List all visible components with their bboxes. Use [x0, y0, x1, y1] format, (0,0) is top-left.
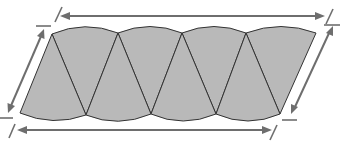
sector-parallelogram-diagram — [0, 0, 342, 145]
top-dimension-arrow — [55, 7, 333, 24]
bottom-dimension-arrow — [9, 124, 277, 140]
sectors-group — [20, 27, 316, 122]
